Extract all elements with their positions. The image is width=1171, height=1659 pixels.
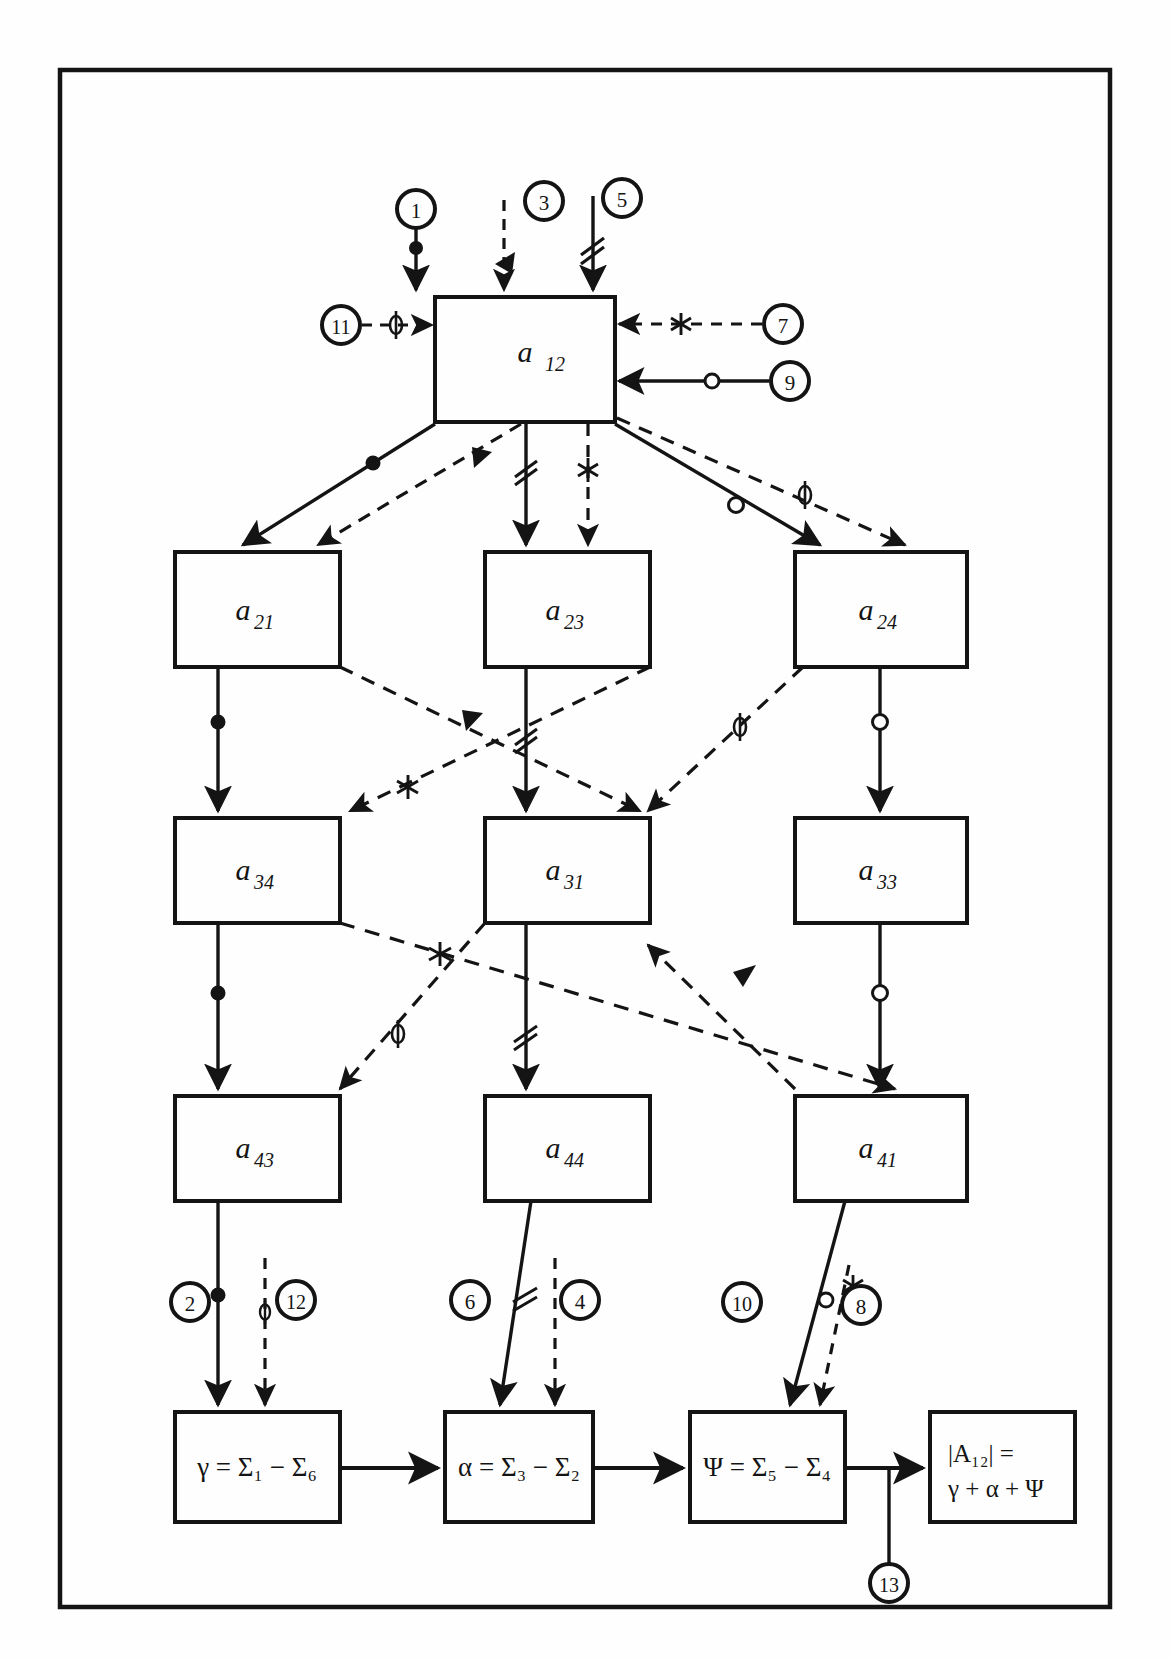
block-label: a — [546, 593, 561, 626]
block-a34[interactable]: a 34 — [175, 818, 340, 923]
edge-a34-a41 — [340, 923, 895, 1089]
node-label: 7 — [778, 314, 789, 338]
result-formula-line1: |A₁₂| = — [948, 1440, 1014, 1467]
edge-a24-a33 — [873, 667, 888, 811]
edge-a24-a31 — [648, 667, 803, 811]
edge-n3-a12 — [495, 200, 515, 290]
edge-n7-a12 — [619, 313, 762, 335]
node-label: 2 — [185, 1292, 196, 1316]
filled-dot-marker — [366, 456, 381, 471]
phi-marker — [392, 1020, 404, 1048]
block-label: a — [236, 853, 251, 886]
result-formula: Ψ = Σ₅ − Σ₄ — [703, 1452, 831, 1482]
node-circle-2[interactable]: 2 — [171, 1283, 209, 1321]
filled-dot-marker — [409, 241, 423, 255]
node-circle-8[interactable]: 8 — [842, 1286, 880, 1324]
filled-dot-marker — [211, 986, 226, 1001]
block-subscript: 21 — [254, 611, 274, 633]
result-block-psi[interactable]: Ψ = Σ₅ − Σ₄ — [690, 1412, 845, 1522]
block-label: a — [236, 1131, 251, 1164]
node-circle-10[interactable]: 10 — [723, 1283, 761, 1321]
node-circle-13[interactable]: 13 — [870, 1564, 908, 1602]
result-block-alpha[interactable]: α = Σ₃ − Σ₂ — [445, 1412, 593, 1522]
edge-a12-a24 — [615, 424, 820, 545]
result-block-final[interactable]: |A₁₂| = γ + α + Ψ — [930, 1412, 1075, 1522]
node-label: 13 — [879, 1574, 899, 1596]
edge-a12-a21 — [243, 424, 435, 545]
edge-a12-a21b — [318, 424, 521, 545]
open-circle-marker — [873, 715, 888, 730]
result-formula: γ = Σ₁ − Σ₆ — [196, 1452, 317, 1482]
block-subscript: 43 — [254, 1149, 274, 1171]
phi-marker — [734, 713, 746, 741]
block-label: a — [518, 335, 533, 368]
edge-n12-gamma — [260, 1258, 270, 1405]
phi-marker — [260, 1301, 270, 1324]
solid-triangle-marker — [472, 447, 492, 468]
block-a33[interactable]: a 33 — [795, 818, 967, 923]
node-circle-11[interactable]: 11 — [322, 306, 360, 344]
node-circle-6[interactable]: 6 — [451, 1281, 489, 1319]
block-label: a — [859, 593, 874, 626]
edge-a21-a34 — [211, 667, 226, 811]
edge-a31-a44 — [514, 923, 537, 1089]
edge-n11-a12 — [362, 311, 432, 339]
solid-triangle-marker — [462, 710, 483, 731]
node-circle-5[interactable]: 5 — [603, 179, 641, 217]
block-label: a — [859, 853, 874, 886]
edge-a44-alpha — [500, 1201, 537, 1405]
edge-a31-a43 — [340, 923, 485, 1089]
node-circle-12[interactable]: 12 — [277, 1281, 315, 1319]
asterisk-marker — [578, 458, 598, 482]
edge-a43-gamma — [211, 1201, 226, 1405]
node-label: 9 — [785, 371, 796, 395]
block-subscript: 33 — [876, 871, 897, 893]
phi-marker — [799, 481, 811, 509]
node-label: 12 — [286, 1291, 306, 1313]
block-a12[interactable]: a 12 — [435, 297, 615, 422]
edge-a33-a44 — [648, 945, 795, 1089]
node-label: 5 — [617, 188, 628, 212]
filled-dot-marker — [211, 715, 226, 730]
block-label: a — [859, 1131, 874, 1164]
edge-a12-a23 — [515, 424, 537, 545]
node-circle-7[interactable]: 7 — [764, 305, 802, 343]
edge-a23-a31 — [515, 667, 537, 811]
node-circle-4[interactable]: 4 — [561, 1281, 599, 1319]
node-label: 1 — [411, 199, 422, 223]
block-label: a — [236, 593, 251, 626]
block-subscript: 44 — [564, 1149, 584, 1171]
solid-triangle-marker — [495, 252, 515, 274]
block-subscript: 24 — [877, 611, 897, 633]
node-label: 6 — [465, 1290, 476, 1314]
open-circle-marker — [819, 1293, 833, 1307]
block-a41[interactable]: a 41 — [795, 1096, 967, 1201]
block-a31[interactable]: a 31 — [485, 818, 650, 923]
open-circle-marker — [873, 986, 888, 1001]
block-subscript: 12 — [545, 353, 565, 375]
diagram-page: a 12 a 21 a 23 a 24 a 34 — [0, 0, 1171, 1659]
block-diagram: a 12 a 21 a 23 a 24 a 34 — [0, 0, 1171, 1659]
result-formula: α = Σ₃ − Σ₂ — [458, 1452, 580, 1482]
open-circle-marker — [729, 498, 744, 513]
node-label: 3 — [539, 191, 550, 215]
edge-a23-a34 — [350, 667, 650, 811]
node-circle-9[interactable]: 9 — [771, 362, 809, 400]
open-circle-marker — [705, 374, 719, 388]
block-a23[interactable]: a 23 — [485, 552, 650, 667]
edge-n9-a12 — [619, 374, 769, 388]
block-a21[interactable]: a 21 — [175, 552, 340, 667]
block-a44[interactable]: a 44 — [485, 1096, 650, 1201]
node-label: 10 — [732, 1293, 752, 1315]
edge-a34-a43 — [211, 923, 226, 1089]
block-subscript: 23 — [564, 611, 584, 633]
node-circle-1[interactable]: 1 — [397, 190, 435, 228]
node-circle-3[interactable]: 3 — [525, 182, 563, 220]
edge-a12-a23b — [578, 424, 598, 545]
block-a24[interactable]: a 24 — [795, 552, 967, 667]
result-block-gamma[interactable]: γ = Σ₁ − Σ₆ — [175, 1412, 340, 1522]
edge-n1-a12 — [409, 228, 423, 290]
node-label: 4 — [575, 1290, 586, 1314]
block-a43[interactable]: a 43 — [175, 1096, 340, 1201]
block-subscript: 31 — [563, 871, 584, 893]
